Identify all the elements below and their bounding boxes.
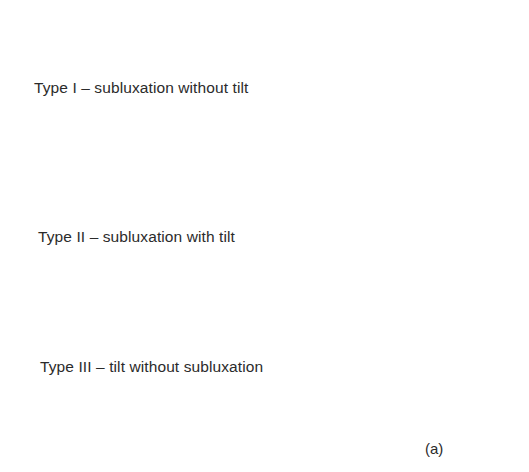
type-1-label: Type I – subluxation without tilt	[34, 79, 248, 97]
type-2-label: Type II – subluxation with tilt	[38, 228, 235, 246]
patella-diagrams: L M L M L M	[360, 0, 529, 472]
type-3-label: Type III – tilt without subluxation	[40, 358, 263, 376]
figure-caption: (a)	[425, 440, 443, 457]
